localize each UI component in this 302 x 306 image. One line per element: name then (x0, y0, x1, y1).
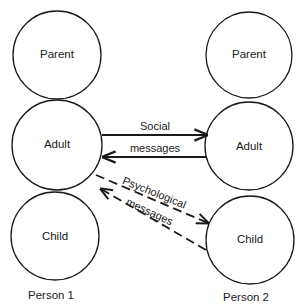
person-1-label: Person 1 (28, 289, 74, 301)
person-1-adult-label: Adult (44, 138, 71, 150)
person-2-column: Parent Adult Child Person 2 (205, 12, 294, 303)
psychological-messages: Psychological messages (96, 174, 208, 250)
social-messages: Social messages (102, 120, 207, 157)
ego-state-diagram: Parent Adult Child Person 1 Parent Adult… (0, 0, 302, 306)
social-label: Social (140, 120, 170, 132)
person-2-adult-label: Adult (236, 140, 263, 152)
person-2-parent-label: Parent (232, 48, 267, 60)
social-messages-label: messages (130, 142, 181, 154)
person-2-child-label: Child (237, 233, 263, 245)
person-1-parent-label: Parent (40, 48, 75, 60)
person-1-child-label: Child (42, 230, 68, 242)
person-2-label: Person 2 (223, 291, 269, 303)
person-1-column: Parent Adult Child Person 1 (11, 11, 102, 301)
